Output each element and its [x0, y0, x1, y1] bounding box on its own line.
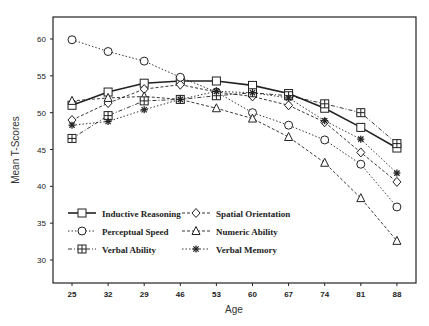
series-perceptual-speed	[72, 40, 397, 207]
circle-marker-icon	[104, 48, 112, 56]
circle-marker-icon	[285, 121, 293, 129]
star-marker-icon	[177, 96, 184, 103]
legend-label: Inductive Reasoning	[102, 209, 181, 219]
series-markers	[68, 36, 401, 211]
legend-item: Numeric Ability	[182, 227, 278, 237]
star-marker-icon	[193, 246, 200, 253]
square-marker-icon	[78, 209, 86, 217]
circle-marker-icon	[176, 73, 184, 81]
x-axis-title: Age	[225, 304, 243, 315]
y-tick-label: 50	[37, 109, 46, 118]
y-axis-title: Mean T-Scores	[10, 116, 21, 184]
series-markers	[68, 92, 401, 244]
triangle-marker-icon	[192, 227, 200, 235]
x-tick-label: 81	[356, 290, 365, 299]
legend-label: Verbal Memory	[216, 245, 277, 255]
x-tick-label: 53	[212, 290, 221, 299]
circle-marker-icon	[68, 36, 76, 44]
legend-label: Verbal Ability	[102, 245, 156, 255]
triangle-marker-icon	[285, 132, 293, 140]
x-tick-label: 25	[68, 290, 77, 299]
series-markers	[68, 80, 401, 186]
star-marker-icon	[321, 117, 328, 124]
diamond-marker-icon	[393, 177, 401, 186]
star-marker-icon	[393, 170, 400, 177]
line-chart: 30354045505560 25322946536067748188 Mean…	[0, 0, 429, 326]
legend-label: Numeric Ability	[216, 227, 278, 237]
x-tick-label: 46	[176, 290, 185, 299]
x-tick-label: 88	[392, 290, 401, 299]
legend-label: Perceptual Speed	[102, 227, 169, 237]
triangle-marker-icon	[357, 194, 365, 202]
square-marker-icon	[212, 77, 220, 85]
circle-marker-icon	[78, 227, 86, 235]
diamond-marker-icon	[357, 148, 365, 157]
x-tick-label: 32	[104, 290, 113, 299]
y-axis: 30354045505560	[37, 35, 53, 265]
series-numeric-ability	[72, 96, 397, 240]
series-verbal-ability	[72, 93, 397, 144]
series-markers	[68, 77, 401, 152]
legend-item: Verbal Ability	[68, 245, 156, 255]
legend-label: Spatial Orientation	[216, 209, 290, 219]
triangle-marker-icon	[321, 158, 329, 166]
star-marker-icon	[69, 122, 76, 129]
square-marker-icon	[357, 123, 365, 131]
plus-square-marker-icon	[321, 100, 329, 108]
y-tick-label: 40	[37, 182, 46, 191]
y-tick-label: 60	[37, 35, 46, 44]
legend: Inductive ReasoningSpatial OrientationPe…	[68, 209, 290, 255]
legend-item: Spatial Orientation	[182, 209, 290, 219]
x-tick-label: 67	[284, 290, 293, 299]
x-tick-label: 29	[140, 290, 149, 299]
star-marker-icon	[213, 88, 220, 95]
plus-square-marker-icon	[68, 134, 76, 142]
square-marker-icon	[249, 81, 257, 89]
series-line	[72, 40, 397, 207]
circle-marker-icon	[140, 57, 148, 65]
series-inductive-reasoning	[72, 81, 397, 148]
series-line	[72, 96, 397, 240]
y-tick-label: 35	[37, 219, 46, 228]
legend-item: Verbal Memory	[182, 245, 277, 255]
star-marker-icon	[249, 89, 256, 96]
x-tick-label: 60	[248, 290, 257, 299]
plus-square-marker-icon	[140, 97, 148, 105]
plus-square-marker-icon	[393, 140, 401, 148]
series-markers	[69, 88, 401, 177]
circle-marker-icon	[357, 160, 365, 168]
diamond-marker-icon	[192, 209, 200, 218]
star-marker-icon	[105, 118, 112, 125]
series-spatial-orientation	[72, 85, 397, 182]
circle-marker-icon	[321, 136, 329, 144]
y-tick-label: 30	[37, 256, 46, 265]
x-tick-label: 74	[320, 290, 329, 299]
series-verbal-memory	[72, 91, 397, 173]
legend-item: Perceptual Speed	[68, 227, 169, 237]
diamond-marker-icon	[285, 101, 293, 110]
x-axis: 25322946536067748188	[68, 283, 402, 299]
legend-item: Inductive Reasoning	[68, 209, 181, 219]
star-marker-icon	[285, 94, 292, 101]
series-line	[72, 93, 397, 144]
series-line	[72, 81, 397, 148]
star-marker-icon	[357, 136, 364, 143]
star-marker-icon	[141, 106, 148, 113]
plus-square-marker-icon	[357, 109, 365, 117]
circle-marker-icon	[393, 203, 401, 211]
series-line	[72, 91, 397, 173]
y-tick-label: 55	[37, 72, 46, 81]
series-line	[72, 85, 397, 182]
y-tick-label: 45	[37, 146, 46, 155]
plus-square-marker-icon	[78, 245, 86, 253]
